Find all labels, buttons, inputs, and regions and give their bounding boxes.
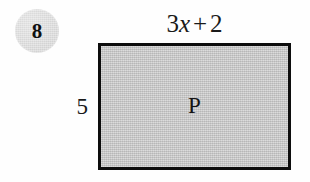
left-dimension-label: 5 (62, 95, 88, 118)
rectangle-interior-label: P (188, 94, 201, 117)
geometry-figure: 8 3x+2 5 P (0, 0, 310, 182)
top-dimension-operator: + (190, 10, 210, 37)
shaded-rectangle: P (98, 43, 291, 170)
top-dimension-label: 3x+2 (98, 10, 291, 38)
problem-number-text: 8 (32, 21, 43, 42)
top-dimension-variable: x (179, 10, 190, 37)
top-dimension-coefficient: 3 (166, 10, 179, 37)
top-dimension-constant: 2 (210, 10, 223, 37)
problem-number-badge: 8 (15, 9, 59, 53)
